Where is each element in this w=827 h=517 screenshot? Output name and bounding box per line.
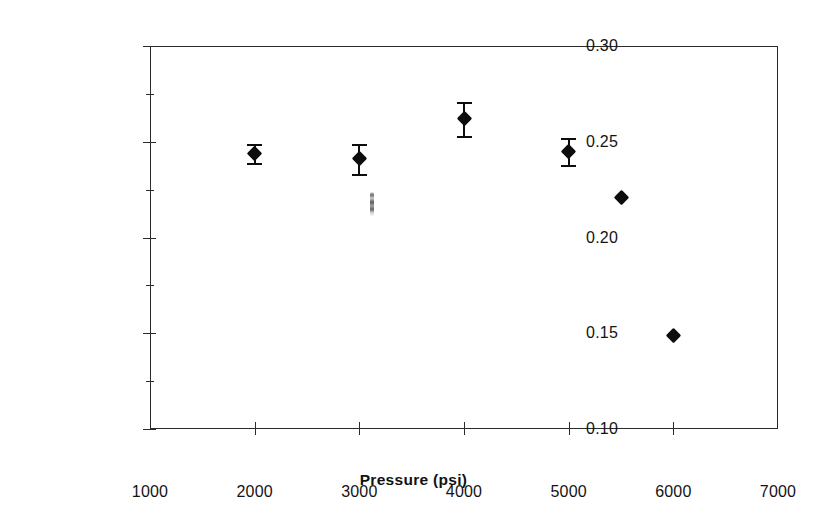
x-axis-title: Pressure (psi) xyxy=(0,471,827,489)
y-axis-tick xyxy=(143,429,156,430)
chart-figure: Foam Bulk Density (g/cm3) 0.100.150.200.… xyxy=(0,0,827,517)
plot-frame xyxy=(150,46,778,429)
